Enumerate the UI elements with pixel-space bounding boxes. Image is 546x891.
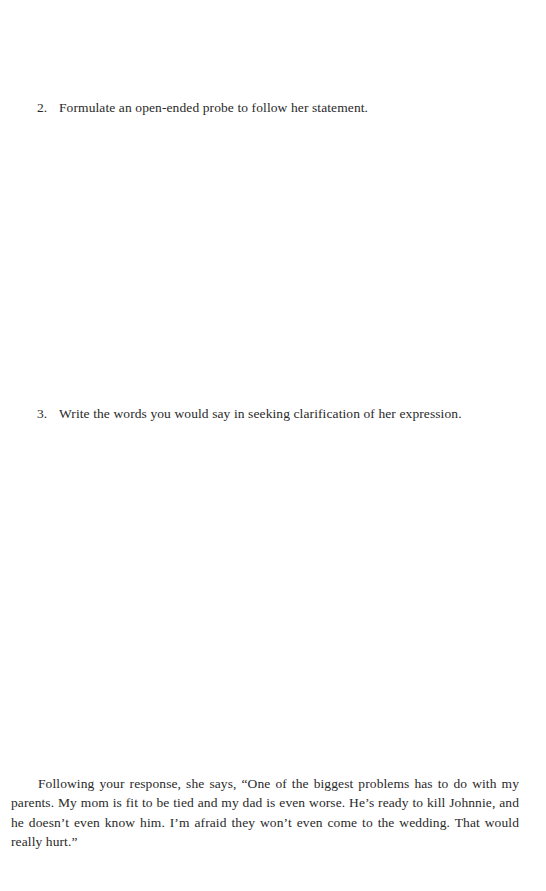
question-3: 3.Write the words you would say in seeki… <box>37 405 462 423</box>
question-text: Write the words you would say in seeking… <box>59 406 462 421</box>
question-number: 3. <box>37 405 59 423</box>
question-text: Formulate an open-ended probe to follow … <box>59 100 368 115</box>
question-number: 2. <box>37 99 59 117</box>
narrative-paragraph: Following your response, she says, “One … <box>11 774 519 852</box>
question-2: 2.Formulate an open-ended probe to follo… <box>37 99 368 117</box>
